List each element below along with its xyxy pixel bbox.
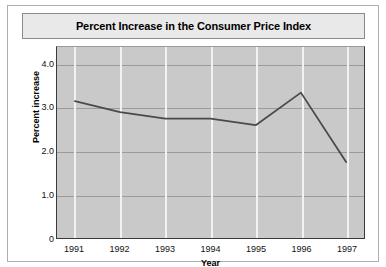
page-title: Percent Increase in the Consumer Price I… [76,20,311,32]
series-polyline [75,93,346,162]
x-axis-title: Year [56,258,365,267]
x-tick-label: 1997 [337,244,357,254]
x-tick-label: 1993 [155,244,175,254]
y-tick-label: 4.0 [20,59,54,69]
x-tick-label: 1995 [246,244,266,254]
x-axis-tick-labels: 1991199219931994199519961997 [56,244,365,258]
x-tick-label: 1991 [64,244,84,254]
chart-title-band: Percent Increase in the Consumer Price I… [22,13,365,39]
x-tick-label: 1994 [200,244,220,254]
x-tick-label: 1996 [291,244,311,254]
y-tick-label: 2.0 [20,146,54,156]
plot-frame [56,46,365,239]
y-tick-label: 3.0 [20,102,54,112]
y-tick-label: 0 [20,234,54,244]
y-tick-label: 1.0 [20,190,54,200]
chart-figure: Percent Increase in the Consumer Price I… [7,5,379,262]
y-axis-tick-labels: 01.02.03.04.0 [16,46,54,239]
plot-area [57,47,364,238]
x-tick-label: 1992 [109,244,129,254]
line-series [57,47,364,238]
